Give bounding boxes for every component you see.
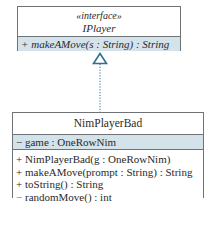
class-attributes: − game : OneRowNim bbox=[13, 135, 203, 150]
visibility-marker: + bbox=[16, 178, 22, 190]
class-methods: + NimPlayerBad(g : OneRowNim) + makeAMov… bbox=[13, 150, 203, 203]
visibility-marker: + bbox=[16, 166, 22, 178]
interface-method: + makeAMove(s : String) : String bbox=[21, 37, 180, 51]
method-signature: toString() : String bbox=[25, 178, 103, 190]
interface-stereotype: «interface» bbox=[18, 10, 180, 22]
interface-methods: + makeAMove(s : String) : String bbox=[18, 37, 180, 51]
method-signature: randomMove() : int bbox=[25, 191, 112, 203]
class-name: NimPlayerBad bbox=[74, 117, 142, 129]
interface-iplayer-box: «interface» IPlayer + makeAMove(s : Stri… bbox=[17, 6, 181, 51]
attribute-signature: game : OneRowNim bbox=[25, 136, 116, 148]
method-signature: NimPlayerBad(g : OneRowNim) bbox=[25, 153, 170, 165]
visibility-marker: + bbox=[16, 153, 22, 165]
method-signature: makeAMove(prompt : String) : String bbox=[25, 166, 192, 178]
interface-name: IPlayer bbox=[18, 22, 180, 34]
visibility-marker: − bbox=[16, 191, 22, 203]
class-method: + makeAMove(prompt : String) : String bbox=[16, 166, 203, 179]
class-attribute: − game : OneRowNim bbox=[16, 135, 203, 149]
method-signature: makeAMove(s : String) : String bbox=[31, 38, 169, 50]
class-method: + toString() : String bbox=[16, 178, 203, 191]
class-nimplayerbad-box: NimPlayerBad − game : OneRowNim + NimPla… bbox=[12, 112, 204, 198]
visibility-marker: − bbox=[16, 136, 22, 148]
class-method: − randomMove() : int bbox=[16, 191, 203, 204]
class-method: + NimPlayerBad(g : OneRowNim) bbox=[16, 153, 203, 166]
interface-header: «interface» IPlayer bbox=[18, 7, 180, 37]
hollow-triangle-arrowhead-icon bbox=[94, 54, 107, 64]
visibility-marker: + bbox=[21, 38, 28, 50]
class-header: NimPlayerBad bbox=[13, 113, 203, 135]
